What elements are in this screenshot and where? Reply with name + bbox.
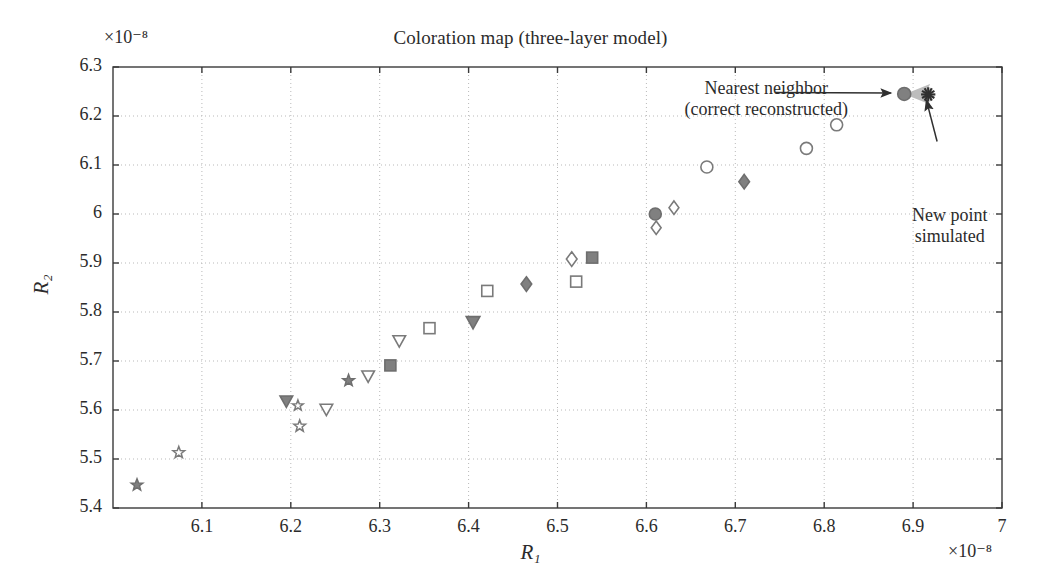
data-point-star-open: [293, 400, 304, 410]
data-point-square-filled: [587, 252, 598, 263]
new-point-arrow: [926, 100, 937, 141]
annotation-line: Nearest neighbor: [685, 78, 848, 99]
figure-container: Coloration map (three-layer model) ×10⁻⁸…: [0, 0, 1061, 585]
data-point-triangle-down-open: [393, 336, 406, 347]
data-point-star-open: [173, 446, 185, 457]
data-point-asterisk-dark: [921, 87, 935, 101]
data-point-triangle-down-filled: [280, 396, 293, 407]
data-point-square-open: [424, 323, 435, 334]
data-point-diamond-open: [669, 201, 679, 214]
data-point-star-open: [294, 420, 306, 431]
data-point-circle-open: [800, 142, 812, 154]
data-point-circle-open: [831, 119, 843, 131]
data-point-diamond-open: [566, 252, 577, 267]
data-point-square-open: [482, 285, 493, 296]
data-point-square-filled: [385, 360, 396, 371]
annotation-line: New point: [912, 205, 988, 226]
data-point-diamond-filled: [739, 174, 750, 189]
annotation-new-point: New pointsimulated: [912, 205, 988, 247]
data-point-diamond-open: [651, 221, 661, 234]
data-points: [131, 87, 935, 490]
data-point-circle-filled: [649, 208, 661, 220]
scatter-plot: [0, 0, 1061, 585]
data-point-square-open: [571, 276, 582, 287]
data-point-diamond-filled: [521, 277, 532, 292]
data-point-circle-filled: [898, 87, 911, 100]
annotation-line: simulated: [912, 226, 988, 247]
data-point-circle-open: [701, 161, 713, 173]
data-point-star-filled: [131, 479, 143, 490]
annotation-line: (correct reconstructed): [685, 99, 848, 120]
gridlines: [113, 67, 1002, 508]
data-point-triangle-down-open: [362, 371, 375, 382]
data-point-star-filled: [343, 374, 355, 385]
annotation-nearest-neighbor: Nearest neighbor(correct reconstructed): [685, 78, 848, 120]
